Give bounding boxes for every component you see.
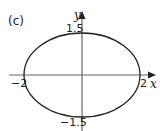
part-label: (c)	[8, 14, 24, 28]
y-axis-label: y	[73, 8, 81, 22]
x-tick-2: 2	[140, 77, 147, 90]
x-axis-label: x	[150, 77, 157, 91]
y-tick-neg-1-5: −1.5	[60, 116, 87, 129]
x-tick-neg-2: −2	[11, 77, 27, 90]
y-tick-1-5: 1.5	[66, 22, 84, 35]
ellipse-diagram: (c) y x 1.5 −1.5 −2 2	[0, 0, 160, 131]
